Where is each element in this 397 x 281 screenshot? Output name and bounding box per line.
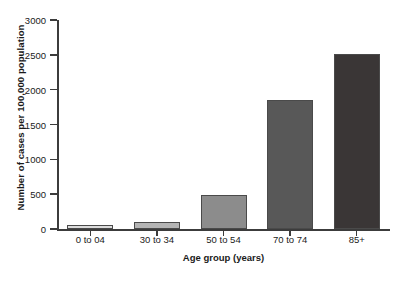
bar bbox=[267, 100, 313, 229]
y-axis-tick: 2500 bbox=[50, 54, 57, 56]
y-axis-tick: 2000 bbox=[50, 89, 57, 91]
y-axis-tick-label: 0 bbox=[41, 224, 46, 235]
bar bbox=[201, 195, 247, 229]
y-axis-tick-label: 3000 bbox=[25, 15, 46, 26]
y-axis-tick-label: 1000 bbox=[25, 154, 46, 165]
bar bbox=[334, 54, 380, 229]
x-axis-tick-label: 0 to 04 bbox=[76, 234, 105, 245]
y-axis-tick-label: 2500 bbox=[25, 49, 46, 60]
x-axis-tick-labels: 0 to 0430 to 3450 to 5470 to 7485+ bbox=[57, 234, 390, 250]
x-axis-tick-label: 50 to 54 bbox=[206, 234, 240, 245]
y-axis-tick-label: 500 bbox=[30, 189, 46, 200]
y-axis-tick: 1000 bbox=[50, 159, 57, 161]
plot-area: 050010001500200025003000 bbox=[57, 20, 390, 229]
y-axis-tick: 3000 bbox=[50, 19, 57, 21]
x-axis-title: Age group (years) bbox=[57, 252, 390, 263]
y-axis-tick-label: 1500 bbox=[25, 119, 46, 130]
y-axis-tick: 0 bbox=[50, 228, 57, 230]
y-axis-tick-label: 2000 bbox=[25, 84, 46, 95]
bar bbox=[134, 222, 180, 229]
y-axis-line bbox=[57, 20, 59, 229]
x-axis-tick-label: 30 to 34 bbox=[140, 234, 174, 245]
x-axis-tick-label: 70 to 74 bbox=[273, 234, 307, 245]
y-axis-tick: 500 bbox=[50, 193, 57, 195]
bar-chart-figure: Number of cases per 100,000 population 0… bbox=[0, 0, 397, 281]
x-axis-tick-label: 85+ bbox=[349, 234, 365, 245]
bar bbox=[67, 225, 113, 229]
y-axis-title: Number of cases per 100,000 population bbox=[15, 3, 26, 233]
y-axis-tick: 1500 bbox=[50, 124, 57, 126]
